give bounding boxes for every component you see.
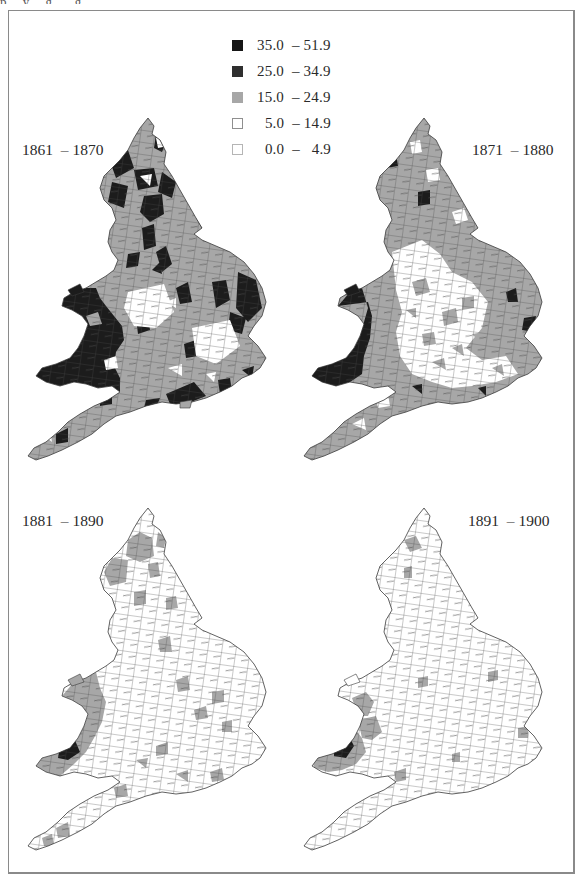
legend-label: 25.0 – 34.9 <box>257 63 331 80</box>
england-wales-map-icon <box>292 112 562 472</box>
england-wales-map-icon <box>16 502 286 862</box>
legend-swatch-icon <box>232 66 243 77</box>
legend-swatch-icon <box>232 92 243 103</box>
legend-item-15-24: 15.0 – 24.9 <box>232 84 331 110</box>
map-1881-1890 <box>16 502 286 862</box>
map-1861-1870 <box>16 112 286 472</box>
england-wales-map-icon <box>16 112 286 472</box>
legend-item-25-34: 25.0 – 34.9 <box>232 58 331 84</box>
england-wales-map-icon <box>292 502 562 862</box>
legend-swatch-icon <box>232 40 243 51</box>
legend-label: 35.0 – 51.9 <box>257 37 331 54</box>
map-1891-1900 <box>292 502 562 862</box>
map-1871-1880 <box>292 112 562 472</box>
legend-label: 15.0 – 24.9 <box>257 89 331 106</box>
legend-item-35-51: 35.0 – 51.9 <box>232 32 331 58</box>
caption-fragment: p ... y ... g ... , g ... <box>0 0 585 4</box>
